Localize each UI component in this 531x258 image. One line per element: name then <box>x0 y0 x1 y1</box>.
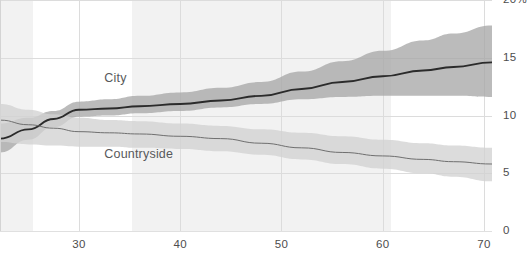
x-axis-tick-label: 70 <box>477 238 490 250</box>
plot-area <box>0 0 492 231</box>
chart-container: CityCountryside 05101520% 3040506070 <box>0 0 531 258</box>
x-axis-tick-label: 60 <box>376 238 389 250</box>
y-axis-tick-label: 15 <box>503 51 516 63</box>
axis-left-edge <box>0 0 1 231</box>
x-axis-tick-label: 30 <box>72 238 85 250</box>
x-axis-tick-label: 50 <box>275 238 288 250</box>
x-axis-tick-label: 40 <box>173 238 186 250</box>
y-axis-tick-label: 10 <box>503 109 516 121</box>
y-axis-tick-label: 5 <box>503 166 510 178</box>
y-axis-tick-label: 0 <box>503 224 510 236</box>
y-axis-tick-label: 20% <box>503 0 527 5</box>
series-layer <box>0 0 492 231</box>
series-label-countryside: Countryside <box>104 147 173 161</box>
series-label-city: City <box>104 71 126 85</box>
axis-bottom-rule <box>0 231 492 232</box>
